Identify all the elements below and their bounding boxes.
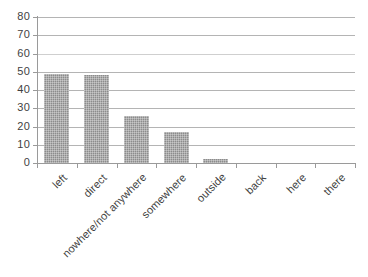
gridline-70 — [37, 35, 355, 36]
x-axis-label: direct — [81, 171, 109, 199]
x-tick-mark — [196, 163, 197, 168]
bar — [84, 75, 109, 163]
x-axis-label: left — [50, 171, 69, 190]
x-axis-label: there — [321, 171, 348, 198]
y-tick-label-30: 30 — [0, 102, 30, 113]
x-axis-label: back — [243, 171, 268, 196]
y-tick-label-70: 70 — [0, 29, 30, 40]
gridline-50 — [37, 72, 355, 73]
x-tick-mark — [77, 163, 78, 168]
y-tick-mark-30 — [33, 108, 37, 109]
bar-chart: 01020304050607080 leftdirectnowhere/not … — [0, 0, 368, 277]
y-tick-label-80: 80 — [0, 11, 30, 22]
x-tick-mark — [37, 163, 38, 168]
y-tick-label-60: 60 — [0, 48, 30, 59]
x-axis-label: outside — [194, 171, 228, 205]
y-tick-label-20: 20 — [0, 121, 30, 132]
x-tick-mark — [236, 163, 237, 168]
y-tick-mark-20 — [33, 127, 37, 128]
x-tick-mark — [315, 163, 316, 168]
y-tick-mark-40 — [33, 90, 37, 91]
x-tick-mark — [156, 163, 157, 168]
y-tick-mark-50 — [33, 72, 37, 73]
y-tick-mark-80 — [33, 17, 37, 18]
y-tick-label-10: 10 — [0, 139, 30, 150]
y-tick-mark-70 — [33, 35, 37, 36]
gridline-80 — [37, 17, 355, 18]
y-tick-mark-60 — [33, 54, 37, 55]
y-tick-mark-10 — [33, 145, 37, 146]
x-tick-mark — [117, 163, 118, 168]
plot-area — [37, 17, 355, 163]
y-tick-label-50: 50 — [0, 66, 30, 77]
bar — [124, 116, 149, 163]
gridline-60 — [37, 54, 355, 55]
bar — [44, 74, 69, 163]
y-tick-label-0: 0 — [0, 157, 30, 168]
y-axis-line — [37, 16, 38, 164]
y-tick-label-40: 40 — [0, 84, 30, 95]
bar — [164, 132, 189, 163]
x-tick-mark — [276, 163, 277, 168]
x-tick-mark — [355, 163, 356, 168]
bar — [203, 159, 228, 163]
x-axis-label: here — [284, 171, 308, 195]
